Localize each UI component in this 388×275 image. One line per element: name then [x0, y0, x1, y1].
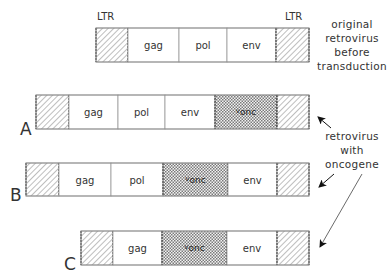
ltr-segment	[277, 163, 309, 196]
original-caption: original retrovirus before transduction	[317, 18, 387, 72]
caption-line: transduction	[317, 60, 387, 72]
ltr-segment	[81, 231, 113, 265]
gene-label: pol	[195, 40, 210, 51]
arrow-to-row-a	[318, 117, 331, 128]
gene-label: pol	[134, 107, 149, 118]
row-letter-a: A	[20, 119, 32, 139]
gene-label: pol	[129, 175, 144, 186]
ltr-segment	[36, 95, 69, 129]
gene-label: env	[242, 40, 260, 51]
ltr-segment	[277, 231, 309, 265]
caption-line: with	[340, 144, 363, 156]
gene-label: gag	[76, 175, 95, 186]
gene-label: env	[181, 107, 199, 118]
caption-line: oncogene	[325, 158, 379, 170]
ltr-segment	[277, 95, 309, 129]
ltr-segment	[26, 163, 59, 196]
gene-label: env	[243, 243, 261, 254]
gene-label: gag	[128, 243, 147, 254]
gene-label: gag	[144, 40, 163, 51]
arrow-to-row-c	[320, 174, 362, 247]
ltr-segment	[96, 28, 128, 62]
arrow-to-row-b	[319, 174, 334, 187]
ltr-label-left: LTR	[97, 11, 114, 22]
genome-row-a: gagpolenvvonc	[36, 95, 309, 129]
oncogene-caption: retrovirus with oncogene	[325, 130, 379, 170]
genome-row-b: gagpolvoncenv	[26, 163, 309, 196]
caption-line: retrovirus	[325, 130, 379, 142]
genome-row-c: gagvoncenv	[81, 231, 309, 265]
row-letter-b: B	[10, 185, 22, 205]
ltr-label-right: LTR	[285, 11, 302, 22]
gene-label: gag	[84, 107, 103, 118]
original-retrovirus-genome: gagpolenv	[96, 28, 309, 62]
gene-label: env	[243, 175, 261, 186]
caption-line: retrovirus	[325, 32, 379, 44]
ltr-segment	[276, 28, 309, 62]
transduction-diagram: LTR LTR gagpolenv original retrovirus be…	[0, 0, 388, 275]
row-letter-c: C	[64, 254, 76, 274]
caption-line: before	[334, 46, 370, 58]
caption-line: original	[331, 18, 373, 30]
